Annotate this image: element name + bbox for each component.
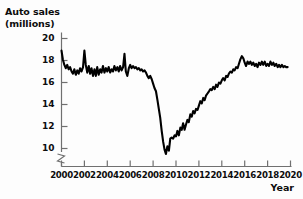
axes (58, 33, 292, 167)
chart-figure: Auto sales (millions) Year 101214161820 … (0, 0, 303, 199)
series-line-auto-sales (62, 51, 288, 154)
plot-area (0, 0, 303, 199)
data-series (62, 51, 288, 154)
